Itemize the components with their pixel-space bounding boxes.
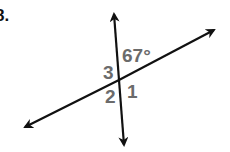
vertical-line-lower [119,80,124,145]
angle-67-label: 67° [122,45,151,67]
angle-3-label: 3 [103,62,114,84]
angle-1-label: 1 [127,81,138,103]
intersecting-lines-diagram [0,0,230,152]
vertical-line [114,14,119,80]
angle-2-label: 2 [105,86,116,108]
